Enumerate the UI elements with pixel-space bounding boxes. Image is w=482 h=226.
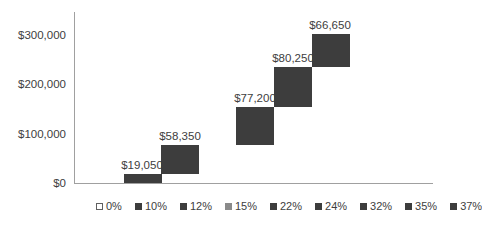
legend-item: 0%: [96, 200, 122, 212]
bar-value-label: $66,650: [309, 19, 351, 31]
bar-value-label: $19,050: [121, 159, 163, 171]
legend-swatch-icon: [270, 203, 277, 210]
legend-item: 12%: [180, 200, 212, 212]
legend-item: 24%: [315, 200, 347, 212]
y-tick-label: $100,000: [18, 128, 66, 140]
legend-label: 10%: [145, 200, 167, 212]
bar-32pct: [312, 34, 350, 67]
y-axis-line: [74, 12, 75, 184]
bar-22pct: [236, 107, 274, 145]
x-axis-line: [74, 183, 433, 184]
bar-value-label: $77,200: [234, 92, 276, 104]
bar-24pct: [274, 67, 312, 107]
legend-item: 35%: [405, 200, 437, 212]
legend-item: 22%: [270, 200, 302, 212]
legend-label: 35%: [415, 200, 437, 212]
legend: 0%10%12%15%22%24%32%35%37%: [96, 200, 482, 212]
legend-item: 32%: [360, 200, 392, 212]
legend-swatch-icon: [360, 203, 367, 210]
legend-swatch-icon: [180, 203, 187, 210]
legend-swatch-icon: [405, 203, 412, 210]
y-tick-label: $0: [53, 177, 66, 189]
bar-value-label: $80,250: [272, 52, 314, 64]
legend-swatch-icon: [96, 203, 103, 210]
legend-label: 22%: [280, 200, 302, 212]
legend-swatch-icon: [315, 203, 322, 210]
legend-label: 37%: [460, 200, 482, 212]
bar-value-label: $58,350: [159, 130, 201, 142]
legend-item: 10%: [135, 200, 167, 212]
legend-swatch-icon: [135, 203, 142, 210]
legend-swatch-icon: [450, 203, 457, 210]
bar-12pct: [161, 145, 199, 174]
y-tick-label: $200,000: [18, 78, 66, 90]
y-tick-label: $300,000: [18, 29, 66, 41]
legend-label: 12%: [190, 200, 212, 212]
legend-swatch-icon: [225, 203, 232, 210]
legend-label: 24%: [325, 200, 347, 212]
legend-label: 15%: [235, 200, 257, 212]
bar-10pct: [124, 174, 162, 183]
legend-item: 15%: [225, 200, 257, 212]
legend-label: 32%: [370, 200, 392, 212]
legend-item: 37%: [450, 200, 482, 212]
legend-label: 0%: [106, 200, 122, 212]
